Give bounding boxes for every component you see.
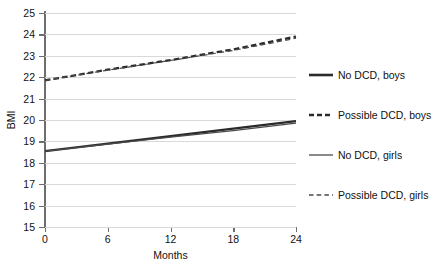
legend-label: No DCD, girls [338, 150, 402, 161]
legend-label: Possible DCD, girls [338, 190, 428, 201]
y-tick-label: 20 [23, 115, 35, 126]
plot-area [45, 13, 296, 227]
x-tick-label: 18 [227, 234, 239, 245]
legend-item[interactable]: Possible DCD, girls [309, 175, 433, 215]
series-lines [45, 13, 296, 227]
legend-line-swatch-icon [309, 69, 333, 81]
y-tick-label: 18 [23, 158, 35, 169]
legend-label: Possible DCD, boys [338, 110, 431, 121]
x-tick-label: 0 [42, 234, 48, 245]
legend-line-swatch-icon [309, 149, 333, 161]
legend-item[interactable]: Possible DCD, boys [309, 95, 433, 135]
x-axis-title: Months [45, 249, 296, 261]
x-tick-label: 6 [105, 234, 111, 245]
y-tick-label: 15 [23, 222, 35, 233]
y-tick-label: 25 [23, 8, 35, 19]
series-line-2 [45, 123, 296, 151]
y-tick-label: 24 [23, 29, 35, 40]
y-tick-label: 21 [23, 93, 35, 104]
legend-line-swatch-icon [309, 109, 333, 121]
y-tick-label: 16 [23, 200, 35, 211]
gridline [45, 227, 296, 228]
x-tick-label: 24 [290, 234, 302, 245]
bmi-growth-chart: BMI 1516171819202122232425 06121824 Mont… [0, 0, 433, 267]
y-tick-label: 17 [23, 179, 35, 190]
y-tick-label: 19 [23, 136, 35, 147]
legend-item[interactable]: No DCD, girls [309, 135, 433, 175]
x-tick-label: 12 [165, 234, 177, 245]
legend-label: No DCD, boys [338, 70, 405, 81]
x-tick-mark [296, 227, 297, 232]
legend-line-swatch-icon [309, 189, 333, 201]
y-tick-label: 23 [23, 51, 35, 62]
chart-legend: No DCD, boysPossible DCD, boysNo DCD, gi… [309, 55, 433, 215]
legend-item[interactable]: No DCD, boys [309, 55, 433, 95]
y-axis-title: BMI [5, 111, 17, 130]
y-tick-label: 22 [23, 72, 35, 83]
